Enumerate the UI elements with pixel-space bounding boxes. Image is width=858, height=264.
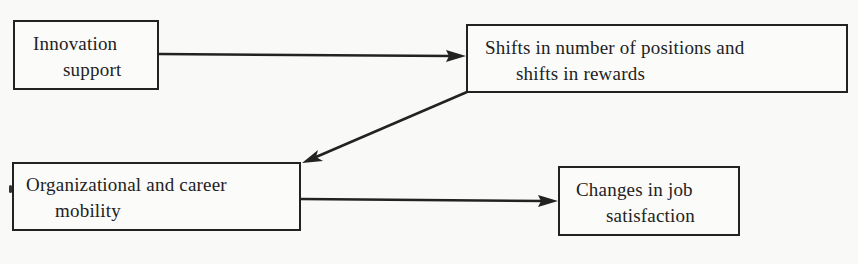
- arrow-shifts-to-mobility: [302, 92, 467, 163]
- arrow-mobility-to-satisfaction: [301, 195, 558, 207]
- node-shifts-positions-rewards: Shifts in number of positions and shifts…: [466, 24, 848, 93]
- node-innovation-support: Innovation support: [13, 20, 159, 90]
- arrow-innovation-to-shifts: [159, 50, 466, 62]
- node-organizational-career-mobility: Organizational and career mobility: [12, 162, 301, 231]
- node-label-line: support: [33, 57, 157, 83]
- node-changes-job-satisfaction: Changes in job satisfaction: [558, 166, 740, 236]
- node-label-line: mobility: [26, 198, 299, 224]
- node-label-line: Changes in job: [576, 177, 738, 203]
- node-label-line: Organizational and career: [26, 172, 299, 198]
- flow-diagram: Innovation support Shifts in number of p…: [0, 0, 858, 264]
- node-label-line: Innovation: [33, 31, 157, 57]
- node-label-line: Shifts in number of positions and: [485, 35, 846, 61]
- node-label-line: satisfaction: [576, 203, 738, 229]
- node-label-line: shifts in rewards: [485, 61, 846, 87]
- scan-mark: [9, 185, 12, 193]
